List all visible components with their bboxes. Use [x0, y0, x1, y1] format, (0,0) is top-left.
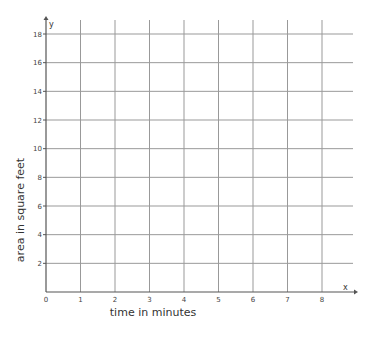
y-axis-label: area in square feet — [14, 157, 27, 262]
y-tick-label: 14 — [33, 88, 42, 96]
x-axis-name: x — [343, 283, 348, 292]
x-tick-label: 8 — [320, 296, 324, 304]
x-tick-label: 5 — [216, 296, 220, 304]
x-axis-label: time in minutes — [110, 306, 197, 319]
coordinate-grid-chart: 01234567824681012141618 x y time in minu… — [0, 0, 369, 340]
y-tick-label: 2 — [38, 260, 42, 268]
x-tick-label: 4 — [182, 296, 187, 304]
x-axis-arrow-icon — [354, 290, 358, 295]
x-tick-label: 2 — [113, 296, 117, 304]
y-tick-label: 6 — [38, 203, 43, 211]
x-tick-label: 1 — [78, 296, 82, 304]
y-tick-label: 4 — [38, 231, 43, 239]
y-tick-label: 18 — [33, 31, 42, 39]
x-tick-label: 7 — [285, 296, 289, 304]
y-axis-arrow-icon — [44, 16, 49, 20]
axes — [44, 16, 359, 295]
y-tick-label: 8 — [38, 174, 42, 182]
y-axis-name: y — [49, 20, 54, 29]
y-tick-label: 10 — [33, 145, 42, 153]
y-tick-label: 12 — [33, 117, 42, 125]
grid-lines — [43, 20, 353, 292]
x-tick-label: 3 — [147, 296, 151, 304]
x-tick-label: 6 — [251, 296, 256, 304]
y-tick-label: 16 — [33, 59, 42, 67]
x-tick-label: 0 — [44, 296, 48, 304]
